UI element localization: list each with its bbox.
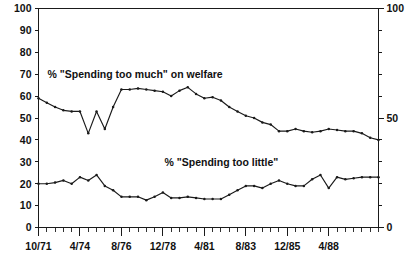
series-point [211, 96, 214, 99]
series-point [327, 128, 330, 131]
series-point [46, 182, 49, 185]
series-point [170, 197, 173, 200]
y-right-tick-label: 0 [387, 221, 393, 233]
series-point [286, 182, 289, 185]
series-point [344, 130, 347, 133]
x-axis-ticks [39, 228, 379, 236]
y-axis-right-group: 050100 [379, 2, 405, 233]
series-point [70, 182, 73, 185]
x-axis-tick-label: 4/81 [194, 240, 215, 252]
series-line [39, 87, 379, 140]
y-axis-right-labels: 050100 [387, 2, 405, 233]
y-left-tick-label: 50 [20, 112, 32, 124]
series-point [79, 176, 82, 179]
y-left-tick-label: 40 [20, 134, 32, 146]
series-point [261, 187, 264, 190]
series-point [369, 136, 372, 139]
series-point [95, 174, 98, 177]
series-point [377, 139, 380, 142]
series-point [303, 185, 306, 188]
series-point [286, 130, 289, 133]
x-axis-tick-label: 12/78 [150, 240, 176, 252]
y-left-tick-label: 80 [20, 46, 32, 58]
series-point [153, 89, 156, 92]
series-point [187, 196, 190, 199]
series-point [311, 178, 314, 181]
welfare-spending-line-chart: 0102030405060708090100 050100 10/714/748… [0, 0, 413, 270]
series-point [361, 176, 364, 179]
series-point [352, 177, 355, 180]
chart-canvas: 0102030405060708090100 050100 10/714/748… [0, 0, 413, 270]
y-left-tick-label: 10 [20, 199, 32, 211]
y-right-tick-label: 50 [387, 112, 399, 124]
series-point [79, 110, 82, 113]
series-point [344, 178, 347, 181]
series-point [178, 89, 181, 92]
series-point [178, 197, 181, 200]
series-point [361, 132, 364, 135]
x-axis-tick-label: 4/88 [319, 240, 340, 252]
series-point [294, 128, 297, 131]
y-left-tick-label: 60 [20, 90, 32, 102]
y-left-tick-label: 90 [20, 24, 32, 36]
series-point [128, 88, 131, 91]
y-axis-right-ticks [379, 9, 384, 228]
series-point [269, 123, 272, 126]
data-series-layer [37, 86, 380, 201]
series-point [336, 129, 339, 132]
x-axis-group: 10/714/748/7612/784/818/8312/854/88 [25, 228, 378, 252]
series-line [39, 175, 379, 200]
series-point [278, 179, 281, 182]
series-point [220, 198, 223, 201]
series-point [128, 196, 131, 199]
y-axis-left-labels: 0102030405060708090100 [14, 2, 32, 233]
series-point [327, 187, 330, 190]
series-point [62, 179, 65, 182]
series-point [294, 185, 297, 188]
series-point [319, 130, 322, 133]
series-point [153, 196, 156, 199]
x-axis-tick-label: 8/76 [111, 240, 132, 252]
series-point [195, 93, 198, 96]
y-left-tick-label: 0 [26, 221, 32, 233]
y-axis-left-group: 0102030405060708090100 [14, 2, 39, 233]
y-left-tick-label: 100 [14, 2, 32, 14]
series-point [46, 101, 49, 104]
series-point [37, 182, 40, 185]
series-point [236, 110, 239, 113]
series-point [352, 130, 355, 133]
series-point [104, 128, 107, 131]
series-point [87, 179, 90, 182]
spending-too-little-label: % "Spending too little" [165, 156, 279, 168]
series-point [369, 176, 372, 179]
y-axis-left-ticks [35, 9, 39, 228]
series-point [62, 109, 65, 112]
series-point [253, 117, 256, 120]
y-left-tick-label: 70 [20, 68, 32, 80]
series-point [95, 110, 98, 113]
series-point [170, 95, 173, 98]
series-point [245, 185, 248, 188]
y-right-tick-label: 100 [387, 2, 405, 14]
series-point [37, 97, 40, 100]
series-point [112, 189, 115, 192]
y-left-tick-label: 20 [20, 178, 32, 190]
series-spending-too-little [37, 174, 380, 202]
series-point [211, 198, 214, 201]
series-point [336, 176, 339, 179]
series-point [303, 130, 306, 133]
x-axis-tick-label: 8/83 [236, 240, 257, 252]
series-point [162, 90, 165, 93]
series-point [187, 86, 190, 89]
x-axis-tick-label: 12/85 [274, 240, 300, 252]
series-point [145, 199, 148, 202]
series-point [162, 191, 165, 194]
x-axis-tick-label: 4/74 [70, 240, 91, 252]
series-point [195, 197, 198, 200]
series-point [54, 181, 57, 184]
series-spending-too-much [37, 86, 380, 141]
series-point [261, 121, 264, 124]
series-point [319, 174, 322, 177]
series-point [112, 106, 115, 109]
series-point [253, 185, 256, 188]
